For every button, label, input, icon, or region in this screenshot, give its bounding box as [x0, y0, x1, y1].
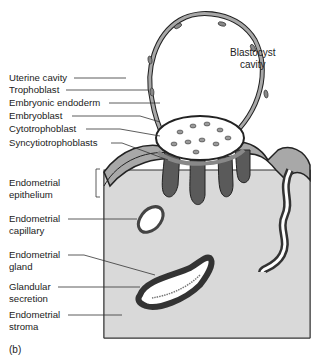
label-line1: Endometrial: [9, 249, 60, 261]
label-glandular-secretion: Glandular secretion: [9, 281, 51, 305]
cavity-label-line1: Blastocyst: [230, 47, 276, 59]
label-syncytiotrophoblasts: Syncytiotrophoblasts: [9, 137, 98, 149]
label-endometrial-capillary: Endometrial capillary: [9, 213, 60, 237]
label-line2: capillary: [9, 225, 60, 237]
label-line2: secretion: [9, 293, 51, 305]
label-embryoblast: Embryoblast: [9, 110, 62, 122]
label-line2: epithelium: [9, 189, 60, 201]
label-endometrial-gland: Endometrial gland: [9, 249, 60, 273]
label-line1: Endometrial: [9, 213, 60, 225]
label-line1: Endometrial: [9, 309, 60, 321]
implantation-diagram: Blastocyst cavity Uterine cavity Trophob…: [0, 0, 321, 364]
panel-label: (b): [9, 344, 21, 355]
label-uterine-cavity: Uterine cavity: [9, 72, 67, 84]
label-endometrial-epithelium: Endometrial epithelium: [9, 177, 60, 201]
label-endometrial-stroma: Endometrial stroma: [9, 309, 60, 333]
label-trophoblast: Trophoblast: [9, 84, 59, 96]
label-line2: gland: [9, 261, 60, 273]
cavity-label-line2: cavity: [230, 59, 276, 71]
blastocyst-cavity-label: Blastocyst cavity: [230, 47, 276, 71]
label-embryonic-endoderm: Embryonic endoderm: [9, 97, 100, 109]
label-line1: Endometrial: [9, 177, 60, 189]
label-cytotrophoblast: Cytotrophoblast: [9, 123, 76, 135]
label-line1: Glandular: [9, 281, 51, 293]
label-line2: stroma: [9, 321, 60, 333]
